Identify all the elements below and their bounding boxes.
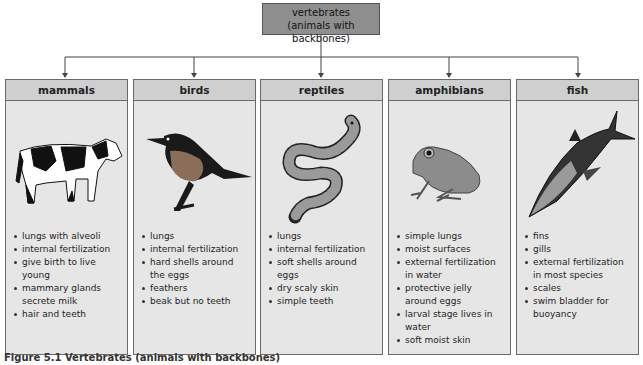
connector-lines	[0, 0, 643, 80]
group-card-amphibians: amphibians simple lungs moist surfaces e…	[388, 79, 511, 355]
group-card-reptiles: reptiles lungs internal fertilization so…	[260, 79, 383, 355]
trait-list: lungs internal fertilization soft shells…	[261, 226, 382, 308]
arrow-down-icon	[318, 73, 324, 78]
trait-item: lungs with alveoli	[14, 230, 123, 243]
trait-item: gills	[525, 243, 634, 256]
arrow-down-icon	[575, 73, 581, 78]
trait-item: scales	[525, 282, 634, 295]
group-header: reptiles	[261, 80, 382, 101]
trait-item: feathers	[142, 282, 251, 295]
trait-item: moist surfaces	[397, 243, 506, 256]
arrow-down-icon	[191, 73, 197, 78]
group-card-birds: birds lungs internal fertilization hard …	[133, 79, 256, 355]
frog-illustration-icon	[389, 101, 510, 226]
trait-item: larval stage lives in water	[397, 308, 506, 334]
snake-illustration-icon	[261, 101, 382, 226]
trait-list: simple lungs moist surfaces external fer…	[389, 226, 510, 347]
trait-item: beak but no teeth	[142, 295, 251, 308]
trait-list: lungs with alveoli internal fertilizatio…	[6, 226, 127, 321]
group-card-mammals: mammals lungs with alveoli internal fert…	[5, 79, 128, 355]
trait-item: external fertilization in most species	[525, 256, 634, 282]
trait-item: dry scaly skin	[269, 282, 378, 295]
trait-list: lungs internal fertilization hard shells…	[134, 226, 255, 308]
trait-item: mammary glands secrete milk	[14, 282, 123, 308]
group-header: mammals	[6, 80, 127, 101]
figure-caption: Figure 5.1 Vertebrates (animals with bac…	[4, 352, 280, 363]
trait-item: simple lungs	[397, 230, 506, 243]
trait-item: protective jelly around eggs	[397, 282, 506, 308]
trait-item: external fertilization in water	[397, 256, 506, 282]
trait-item: swim bladder for buoyancy	[525, 295, 634, 321]
trait-list: fins gills external fertilization in mos…	[517, 226, 638, 321]
cow-illustration-icon	[6, 101, 127, 226]
trait-item: hard shells around the eggs	[142, 256, 251, 282]
trait-item: lungs	[142, 230, 251, 243]
group-header: birds	[134, 80, 255, 101]
trait-item: internal fertilization	[269, 243, 378, 256]
trait-item: hair and teeth	[14, 308, 123, 321]
group-header: fish	[517, 80, 638, 101]
trait-item: give birth to live young	[14, 256, 123, 282]
arrow-down-icon	[446, 73, 452, 78]
bird-illustration-icon	[134, 101, 255, 226]
shark-illustration-icon	[517, 101, 638, 226]
trait-item: simple teeth	[269, 295, 378, 308]
group-card-fish: fish fins gills external fertilization i…	[516, 79, 639, 355]
trait-item: soft moist skin	[397, 334, 506, 347]
arrow-down-icon	[62, 73, 68, 78]
trait-item: internal fertilization	[142, 243, 251, 256]
trait-item: fins	[525, 230, 634, 243]
group-header: amphibians	[389, 80, 510, 101]
trait-item: lungs	[269, 230, 378, 243]
trait-item: soft shells around eggs	[269, 256, 378, 282]
trait-item: internal fertilization	[14, 243, 123, 256]
